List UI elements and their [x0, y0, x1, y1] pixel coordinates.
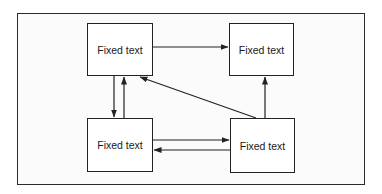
edge-br-to-tl	[140, 77, 256, 118]
node-bottom-right: Fixed text	[230, 118, 295, 173]
node-label: Fixed text	[240, 140, 286, 152]
node-label: Fixed text	[97, 139, 143, 151]
node-top-left: Fixed text	[87, 23, 153, 76]
node-bottom-left: Fixed text	[87, 118, 153, 172]
diagram-canvas: Fixed text Fixed text Fixed text Fixed t…	[0, 0, 382, 194]
node-label: Fixed text	[97, 44, 143, 56]
node-top-right: Fixed text	[229, 23, 294, 76]
edges-layer	[0, 0, 382, 194]
node-label: Fixed text	[239, 44, 285, 56]
